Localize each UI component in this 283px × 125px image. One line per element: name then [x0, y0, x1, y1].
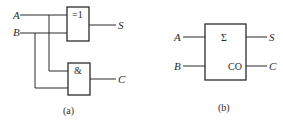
diagram-b-block-symbol: A B Σ CO S C (b) [173, 24, 277, 114]
carry-out-symbol: CO [228, 61, 242, 72]
output-c-label: C [118, 73, 126, 85]
input-a-label: A [173, 31, 181, 43]
and-symbol: & [74, 65, 82, 76]
wire-a-to-and [49, 15, 68, 71]
input-a-label: A [12, 9, 20, 21]
input-b-label: B [174, 60, 181, 72]
xor-symbol: =1 [72, 9, 83, 20]
output-s-label: S [269, 31, 275, 43]
input-b-label: B [13, 26, 20, 38]
half-adder-diagram: A B =1 S & C (a) A B Σ CO S C (b) [0, 0, 283, 125]
output-c-label: C [269, 60, 277, 72]
wire-b-to-and [35, 33, 68, 88]
output-s-label: S [118, 19, 124, 31]
sum-symbol: Σ [221, 32, 227, 43]
caption-b: (b) [218, 102, 230, 114]
diagram-a-logic-circuit: A B =1 S & C (a) [12, 7, 126, 117]
caption-a: (a) [63, 105, 74, 117]
